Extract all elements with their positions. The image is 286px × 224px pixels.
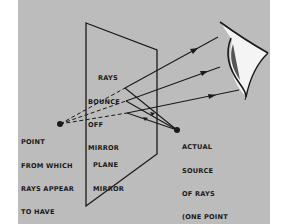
actual-source-dot xyxy=(174,127,180,133)
image-point-label: POINT FROM WHICH RAYS APPEAR TO HAVE COM… xyxy=(21,124,74,224)
rays-bounce-label: RAYS BOUNCE OFF MIRROR xyxy=(88,60,128,160)
eye-icon xyxy=(220,22,268,100)
incident-rays xyxy=(125,88,177,130)
plane-mirror-label: PLANE MIRROR xyxy=(93,147,124,201)
reflected-ray-arrows xyxy=(190,48,216,99)
actual-source-label: ACTUAL SOURCE OF RAYS (ONE POINT ON THE … xyxy=(182,129,228,224)
